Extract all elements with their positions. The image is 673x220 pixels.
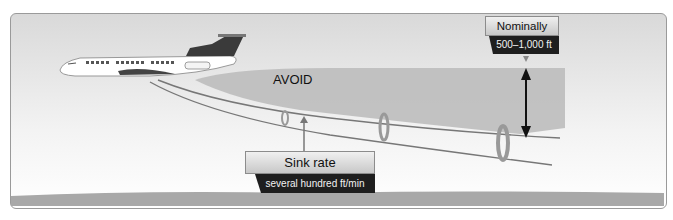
avoid-zone-label: AVOID [273, 72, 313, 87]
sink-rate-title: Sink rate [245, 151, 375, 174]
nominal-callout: Nominally 500–1,000 ft [485, 16, 559, 54]
nominal-title: Nominally [485, 16, 559, 36]
airplane-icon [60, 34, 246, 76]
sink-rate-callout: Sink rate several hundred ft/min [245, 151, 375, 193]
nominal-value: 500–1,000 ft [489, 36, 559, 54]
nominal-pointer [523, 56, 529, 62]
sink-rate-value: several hundred ft/min [255, 174, 375, 193]
sink-rate-arrowhead [300, 116, 308, 123]
vortex-ring-small [282, 111, 288, 125]
ground [11, 192, 664, 207]
